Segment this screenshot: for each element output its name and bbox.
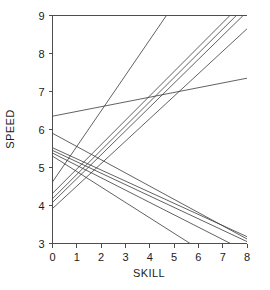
- x-tick-label: 8: [244, 251, 250, 263]
- y-tick-label: 6: [38, 124, 44, 136]
- plot-axes: [53, 16, 248, 244]
- y-axis-ticks: 3456789: [38, 10, 52, 250]
- y-tick-label: 4: [38, 200, 44, 212]
- x-tick-label: 2: [98, 251, 104, 263]
- data-line-5: [53, 5, 248, 199]
- x-tick-label: 7: [220, 251, 226, 263]
- line-chart: 3456789 012345678 SKILL SPEED: [0, 0, 270, 290]
- x-tick-label: 6: [195, 251, 201, 263]
- x-axis-ticks: 012345678: [49, 244, 250, 263]
- x-axis-title: SKILL: [133, 267, 165, 279]
- y-axis-title: SPEED: [4, 109, 16, 148]
- x-tick-label: 4: [147, 251, 153, 263]
- y-tick-label: 3: [38, 238, 44, 250]
- data-line-8: [53, 148, 248, 237]
- x-tick-label: 0: [49, 251, 55, 263]
- y-tick-label: 9: [38, 10, 44, 22]
- x-tick-label: 3: [122, 251, 128, 263]
- y-tick-label: 5: [38, 162, 44, 174]
- data-line-10: [53, 153, 248, 252]
- y-tick-label: 7: [38, 86, 44, 98]
- data-line-2: [53, 29, 248, 209]
- chart-figure: 3456789 012345678 SKILL SPEED: [0, 0, 270, 290]
- plot-data-lines: [53, 0, 248, 280]
- y-tick-label: 8: [38, 48, 44, 60]
- x-tick-label: 1: [74, 251, 80, 263]
- x-tick-label: 5: [171, 251, 177, 263]
- data-line-1: [53, 78, 248, 116]
- data-line-9: [53, 150, 248, 241]
